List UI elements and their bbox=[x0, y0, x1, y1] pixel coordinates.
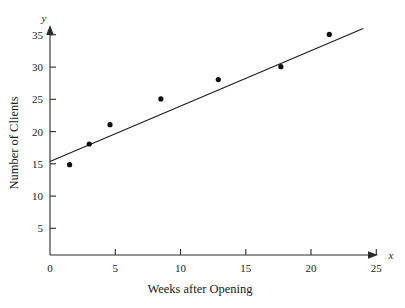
data-point bbox=[278, 64, 283, 69]
data-point bbox=[67, 162, 72, 167]
y-tick-label-20: 20 bbox=[32, 126, 44, 138]
x-tick-label-15: 15 bbox=[240, 262, 252, 274]
x-tick-label-25: 25 bbox=[371, 262, 383, 274]
x-tick-label-20: 20 bbox=[306, 262, 318, 274]
y-tick-label-35: 35 bbox=[32, 29, 44, 41]
y-tick-label-10: 10 bbox=[32, 190, 44, 202]
x-tick-label-0: 0 bbox=[47, 262, 53, 274]
x-axis-title: Weeks after Opening bbox=[147, 282, 253, 296]
data-point bbox=[327, 32, 332, 37]
trend-line bbox=[50, 28, 363, 161]
x-tick-label-10: 10 bbox=[175, 262, 187, 274]
data-point bbox=[216, 77, 221, 82]
chart-canvas: 35 30 25 20 15 10 5 0 5 10 15 20 25 y x … bbox=[0, 0, 405, 308]
y-axis-title: Number of Clients bbox=[7, 96, 21, 189]
x-tick-label-5: 5 bbox=[113, 262, 119, 274]
data-point bbox=[158, 96, 163, 101]
scatter-plot-figure: 35 30 25 20 15 10 5 0 5 10 15 20 25 y x … bbox=[0, 0, 405, 308]
y-tick-label-5: 5 bbox=[38, 222, 44, 234]
y-tick-label-15: 15 bbox=[32, 158, 44, 170]
y-axis-variable-label: y bbox=[41, 12, 47, 24]
y-tick-label-30: 30 bbox=[32, 61, 44, 73]
y-axis-arrow-icon bbox=[46, 25, 54, 35]
data-point bbox=[107, 122, 112, 127]
y-tick-label-25: 25 bbox=[32, 93, 44, 105]
data-point bbox=[87, 141, 92, 146]
x-axis-variable-label: x bbox=[388, 249, 394, 261]
